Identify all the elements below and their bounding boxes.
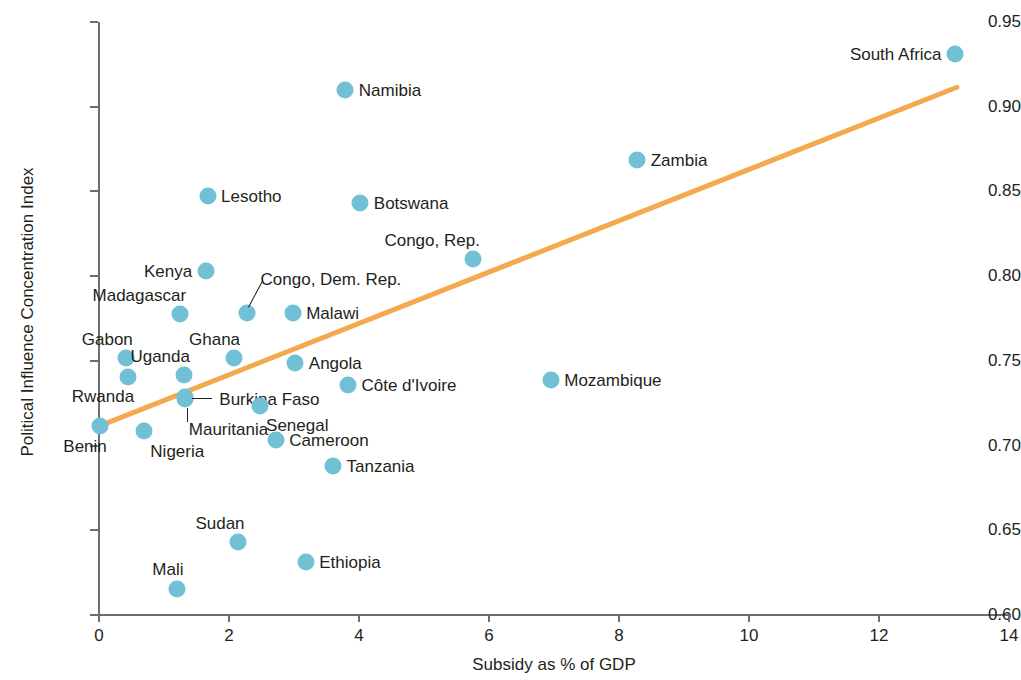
- data-point[interactable]: [176, 389, 193, 406]
- data-point[interactable]: [251, 397, 268, 414]
- data-point-label: Nigeria: [150, 442, 204, 459]
- x-tick-mark: [228, 614, 230, 622]
- data-point-label: Benin: [63, 437, 106, 454]
- y-tick-label: 0.65: [935, 520, 1021, 540]
- data-point[interactable]: [238, 305, 255, 322]
- label-leader-line: [192, 398, 212, 399]
- data-point[interactable]: [118, 350, 135, 367]
- data-point[interactable]: [325, 457, 342, 474]
- y-tick-label: 0.70: [935, 436, 1021, 456]
- data-point-label: Congo, Rep.: [384, 231, 479, 248]
- trendline: [0, 0, 1021, 680]
- data-point[interactable]: [284, 305, 301, 322]
- y-tick-label: 0.85: [935, 181, 1021, 201]
- y-tick-label: 0.95: [935, 12, 1021, 32]
- y-axis-line: [98, 22, 100, 616]
- data-point-label: Namibia: [359, 81, 421, 98]
- y-tick-mark: [90, 360, 98, 362]
- data-point[interactable]: [169, 580, 186, 597]
- x-tick-mark: [878, 614, 880, 622]
- data-point[interactable]: [92, 418, 109, 435]
- data-point[interactable]: [119, 368, 136, 385]
- y-tick-label: 0.90: [935, 97, 1021, 117]
- data-point-label: Ethiopia: [319, 553, 380, 570]
- data-point-label: Gabon: [82, 330, 133, 347]
- data-point[interactable]: [197, 263, 214, 280]
- y-tick-mark: [90, 275, 98, 277]
- data-point[interactable]: [542, 372, 559, 389]
- data-point-label: Rwanda: [72, 388, 134, 405]
- data-point[interactable]: [465, 251, 482, 268]
- y-tick-mark: [90, 445, 98, 447]
- data-point[interactable]: [339, 377, 356, 394]
- data-point-label: Madagascar: [93, 286, 187, 303]
- data-point-label: Mauritania: [189, 421, 268, 438]
- x-tick-label: 6: [484, 626, 493, 646]
- x-tick-label: 8: [614, 626, 623, 646]
- data-point-label: Zambia: [651, 152, 708, 169]
- x-tick-label: 12: [870, 626, 889, 646]
- data-point-label: Burkina Faso: [219, 391, 319, 408]
- data-point-label: Senegal: [266, 417, 328, 434]
- data-point[interactable]: [176, 390, 193, 407]
- y-tick-label: 0.80: [935, 266, 1021, 286]
- data-point[interactable]: [175, 367, 192, 384]
- x-tick-label: 4: [354, 626, 363, 646]
- x-tick-label: 10: [740, 626, 759, 646]
- data-point-label: Sudan: [195, 514, 244, 531]
- data-point-label: Angola: [309, 355, 362, 372]
- label-leader-line: [248, 281, 263, 307]
- x-tick-label: 14: [1000, 626, 1019, 646]
- data-point[interactable]: [171, 306, 188, 323]
- x-axis-title: Subsidy as % of GDP: [98, 655, 1010, 675]
- x-tick-mark: [98, 614, 100, 622]
- data-point-label: Botswana: [374, 195, 449, 212]
- plot-area: BeninGabonRwandaNigeriaMaliMadagascarUga…: [0, 0, 1021, 680]
- data-point-label: Lesotho: [221, 187, 282, 204]
- data-point-label: Ghana: [189, 330, 240, 347]
- data-point[interactable]: [297, 553, 314, 570]
- y-tick-mark: [90, 614, 98, 616]
- x-tick-label: 2: [224, 626, 233, 646]
- x-tick-mark: [748, 614, 750, 622]
- x-axis-line: [98, 614, 1010, 616]
- data-point-label: Côte d'Ivoire: [361, 377, 456, 394]
- data-point-label: Kenya: [144, 263, 192, 280]
- data-point-label: Uganda: [130, 347, 190, 364]
- x-tick-mark: [358, 614, 360, 622]
- y-tick-mark: [90, 529, 98, 531]
- y-tick-mark: [90, 21, 98, 23]
- data-point-label: Congo, Dem. Rep.: [261, 271, 402, 288]
- data-point[interactable]: [199, 187, 216, 204]
- data-point[interactable]: [267, 431, 284, 448]
- data-point-label: Mali: [152, 561, 183, 578]
- x-tick-mark: [618, 614, 620, 622]
- data-point-label: Mozambique: [564, 372, 661, 389]
- y-axis-title: Political Influence Concentration Index: [18, 32, 38, 592]
- y-tick-mark: [90, 190, 98, 192]
- data-point[interactable]: [287, 355, 304, 372]
- data-point[interactable]: [352, 195, 369, 212]
- y-tick-mark: [90, 106, 98, 108]
- data-point-label: Tanzania: [347, 457, 415, 474]
- data-point[interactable]: [337, 81, 354, 98]
- data-point-label: Cameroon: [289, 431, 368, 448]
- chart-figure: 0.600.650.700.750.800.850.900.95 0246810…: [0, 0, 1021, 680]
- data-point[interactable]: [135, 423, 152, 440]
- data-point-label: South Africa: [850, 46, 942, 63]
- x-tick-label: 0: [94, 626, 103, 646]
- x-tick-mark: [1008, 614, 1010, 622]
- data-point[interactable]: [629, 152, 646, 169]
- data-point[interactable]: [947, 46, 964, 63]
- x-tick-mark: [488, 614, 490, 622]
- label-leader-line: [187, 408, 188, 422]
- data-point[interactable]: [225, 350, 242, 367]
- data-point[interactable]: [230, 534, 247, 551]
- data-point-label: Malawi: [306, 305, 359, 322]
- y-tick-label: 0.75: [935, 351, 1021, 371]
